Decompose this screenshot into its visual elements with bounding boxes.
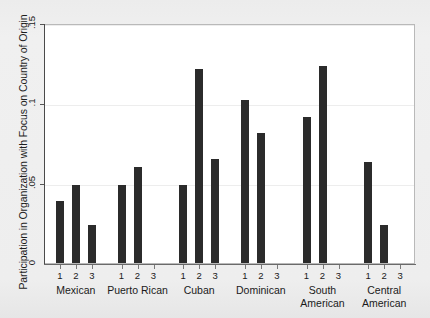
x-axis-subcategory-label: 1 <box>114 270 130 281</box>
gridline <box>45 185 414 186</box>
x-axis-tick-mark <box>154 265 155 269</box>
y-axis-tick-label: .15 <box>26 10 37 36</box>
x-axis-subcategory-label: 2 <box>376 270 392 281</box>
y-axis-tick-label: .1 <box>26 90 37 116</box>
bar <box>72 185 80 263</box>
x-axis-tick-mark <box>199 265 200 269</box>
x-axis-tick-mark <box>183 265 184 269</box>
bar <box>134 167 142 263</box>
bar <box>380 225 388 263</box>
x-axis-subcategory-label: 2 <box>253 270 269 281</box>
x-axis-subcategory-label: 3 <box>146 270 162 281</box>
x-axis-subcategory-label: 3 <box>331 270 347 281</box>
x-axis-tick-mark <box>339 265 340 269</box>
bar <box>303 117 311 263</box>
bar <box>118 185 126 263</box>
plot-area <box>45 24 415 264</box>
x-axis-tick-mark <box>245 265 246 269</box>
x-axis-subcategory-label: 2 <box>130 270 146 281</box>
x-axis-tick-mark <box>368 265 369 269</box>
x-axis-subcategory-label: 2 <box>315 270 331 281</box>
x-axis-group-label: Central American <box>341 284 427 309</box>
x-axis-subcategory-label: 3 <box>392 270 408 281</box>
x-axis-tick-mark <box>400 265 401 269</box>
x-axis-tick-mark <box>76 265 77 269</box>
bar <box>195 69 203 263</box>
bar <box>211 159 219 263</box>
x-axis-subcategory-label: 1 <box>299 270 315 281</box>
x-axis-tick-mark <box>307 265 308 269</box>
bar <box>319 66 327 263</box>
x-axis-subcategory-label: 1 <box>237 270 253 281</box>
x-axis-tick-mark <box>384 265 385 269</box>
x-axis-tick-mark <box>138 265 139 269</box>
x-axis-line <box>44 264 416 265</box>
x-axis-tick-mark <box>60 265 61 269</box>
y-axis-tick-label: .05 <box>26 170 37 196</box>
x-axis-tick-mark <box>261 265 262 269</box>
x-axis-subcategory-label: 3 <box>84 270 100 281</box>
x-axis-subcategory-label: 1 <box>175 270 191 281</box>
bar <box>179 185 187 263</box>
gridline <box>45 25 414 26</box>
x-axis-tick-mark <box>277 265 278 269</box>
x-axis-subcategory-label: 2 <box>68 270 84 281</box>
x-axis-subcategory-label: 3 <box>207 270 223 281</box>
x-axis-tick-mark <box>92 265 93 269</box>
x-axis-tick-mark <box>215 265 216 269</box>
bar <box>364 162 372 263</box>
x-axis-subcategory-label: 2 <box>191 270 207 281</box>
bar <box>88 225 96 263</box>
bar <box>257 133 265 263</box>
x-axis-subcategory-label: 3 <box>269 270 285 281</box>
gridline <box>45 105 414 106</box>
bar <box>241 100 249 263</box>
x-axis-subcategory-label: 1 <box>52 270 68 281</box>
y-axis-tick-label: 0 <box>26 250 37 276</box>
x-axis-tick-mark <box>122 265 123 269</box>
bar <box>56 201 64 263</box>
x-axis-subcategory-label: 1 <box>360 270 376 281</box>
x-axis-tick-mark <box>323 265 324 269</box>
